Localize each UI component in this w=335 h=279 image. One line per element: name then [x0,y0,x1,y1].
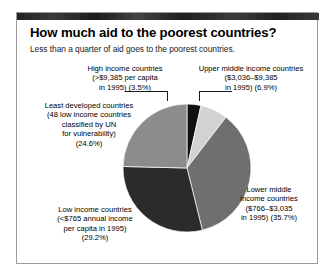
infographic-panel: How much aid to the poorest countries? L… [16,12,318,264]
screenshot-root: The Reality of Aid 2000, Earthscan How m… [0,0,335,279]
pie-chart: High income countries (>$9,385 per capit… [17,13,319,265]
leader-line-upper-middle [199,91,232,101]
label-low-income: Low income countries (<$765 annual incom… [33,205,157,243]
leader-lines [125,91,232,101]
label-high-income: High income countries (>$9,385 per capit… [67,64,183,92]
label-lower-middle-income: Lower middle income countries ($766–$3,0… [223,185,315,223]
leader-line-high-income [125,91,167,101]
label-least-developed: Least developed countries (48 low income… [25,101,153,148]
label-upper-middle-income: Upper middle income countries ($3,036–$9… [189,64,313,92]
